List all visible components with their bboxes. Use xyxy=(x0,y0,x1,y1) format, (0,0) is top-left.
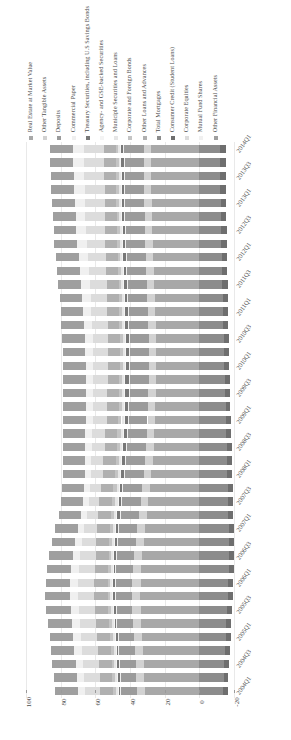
bar-segment[interactable] xyxy=(47,565,71,573)
bar-segment[interactable] xyxy=(116,199,119,207)
bar-segment[interactable] xyxy=(122,321,124,329)
bar-segment[interactable] xyxy=(151,185,199,193)
bar-segment[interactable] xyxy=(148,307,155,315)
legend-item[interactable]: Other Loans and Advances xyxy=(140,0,154,140)
bar-segment[interactable] xyxy=(134,633,142,641)
bar-segment[interactable] xyxy=(145,456,153,464)
bar-segment[interactable] xyxy=(120,470,121,478)
bar-segment[interactable] xyxy=(115,538,117,546)
bar-segment[interactable] xyxy=(124,402,125,410)
bar-segment[interactable] xyxy=(51,172,74,180)
bar-segment[interactable] xyxy=(122,226,123,234)
bar-segment[interactable] xyxy=(199,579,228,587)
bar-segment[interactable] xyxy=(93,348,108,356)
bar-segment[interactable] xyxy=(148,497,199,505)
bar-segment[interactable] xyxy=(117,212,120,220)
bar-segment[interactable] xyxy=(118,267,121,275)
bar-segment[interactable] xyxy=(57,267,80,275)
bar-segment[interactable] xyxy=(125,334,128,342)
bar-row[interactable] xyxy=(26,307,234,315)
bar-segment[interactable] xyxy=(121,172,123,180)
bar-segment[interactable] xyxy=(120,348,123,356)
bar-segment[interactable] xyxy=(84,321,92,329)
bar-segment[interactable] xyxy=(100,673,113,681)
bar-row[interactable] xyxy=(26,660,234,668)
bar-segment[interactable] xyxy=(107,280,119,288)
bar-segment[interactable] xyxy=(116,185,119,193)
bar-segment[interactable] xyxy=(54,226,77,234)
bar-row[interactable] xyxy=(26,606,234,614)
bar-segment[interactable] xyxy=(114,565,116,573)
bar-segment[interactable] xyxy=(107,416,119,424)
bar-segment[interactable] xyxy=(129,375,148,383)
bar-segment[interactable] xyxy=(149,348,156,356)
bar-segment[interactable] xyxy=(121,497,140,505)
bar-segment[interactable] xyxy=(153,253,199,261)
bar-segment[interactable] xyxy=(133,565,141,573)
bar-segment[interactable] xyxy=(85,185,105,193)
bar-segment[interactable] xyxy=(132,606,140,614)
bar-segment[interactable] xyxy=(125,334,126,342)
bar-segment[interactable] xyxy=(121,429,123,437)
bar-segment[interactable] xyxy=(112,497,115,505)
bar-segment[interactable] xyxy=(71,565,79,573)
bar-segment[interactable] xyxy=(225,389,230,397)
bar-segment[interactable] xyxy=(122,456,125,464)
bar-segment[interactable] xyxy=(151,172,199,180)
bar-segment[interactable] xyxy=(108,362,120,370)
bar-segment[interactable] xyxy=(136,660,144,668)
bar-segment[interactable] xyxy=(117,511,119,519)
bar-segment[interactable] xyxy=(84,673,99,681)
bar-segment[interactable] xyxy=(116,633,118,641)
bar-segment[interactable] xyxy=(94,579,107,587)
bar-segment[interactable] xyxy=(224,348,229,356)
bar-segment[interactable] xyxy=(121,470,124,478)
legend-item[interactable]: Commercial Paper xyxy=(69,0,83,140)
bar-segment[interactable] xyxy=(128,416,147,424)
bar-segment[interactable] xyxy=(119,402,122,410)
bar-segment[interactable] xyxy=(144,470,152,478)
bar-segment[interactable] xyxy=(199,592,227,600)
bar-segment[interactable] xyxy=(119,199,121,207)
bar-segment[interactable] xyxy=(199,199,220,207)
legend-item[interactable]: Deposits xyxy=(54,0,68,140)
bar-segment[interactable] xyxy=(128,294,148,302)
bar-segment[interactable] xyxy=(111,565,113,573)
bar-segment[interactable] xyxy=(124,416,125,424)
bar-segment[interactable] xyxy=(122,443,123,451)
bar-segment[interactable] xyxy=(199,389,225,397)
bar-segment[interactable] xyxy=(133,619,141,627)
bar-segment[interactable] xyxy=(81,511,87,519)
bar-segment[interactable] xyxy=(224,660,229,668)
bar-segment[interactable] xyxy=(227,443,232,451)
bar-segment[interactable] xyxy=(105,212,117,220)
bar-segment[interactable] xyxy=(142,484,150,492)
bar-segment[interactable] xyxy=(127,267,147,275)
bar-segment[interactable] xyxy=(112,619,114,627)
bar-segment[interactable] xyxy=(149,375,156,383)
bar-segment[interactable] xyxy=(199,538,228,546)
bar-segment[interactable] xyxy=(220,158,226,166)
bar-segment[interactable] xyxy=(115,565,116,573)
bar-segment[interactable] xyxy=(111,606,113,614)
bar-segment[interactable] xyxy=(199,511,228,519)
bar-segment[interactable] xyxy=(114,646,116,654)
bar-segment[interactable] xyxy=(46,579,70,587)
bar-segment[interactable] xyxy=(225,375,230,383)
bar-segment[interactable] xyxy=(120,145,121,153)
bar-segment[interactable] xyxy=(155,294,200,302)
bar-segment[interactable] xyxy=(73,158,83,166)
bar-segment[interactable] xyxy=(113,579,115,587)
bar-segment[interactable] xyxy=(118,470,120,478)
bar-segment[interactable] xyxy=(103,470,115,478)
bar-segment[interactable] xyxy=(225,646,230,654)
bar-segment[interactable] xyxy=(110,579,112,587)
bar-segment[interactable] xyxy=(199,565,228,573)
bar-segment[interactable] xyxy=(120,443,122,451)
bar-segment[interactable] xyxy=(112,660,115,668)
bar-segment[interactable] xyxy=(149,334,156,342)
bar-segment[interactable] xyxy=(55,524,78,532)
bar-segment[interactable] xyxy=(129,348,148,356)
bar-segment[interactable] xyxy=(113,606,114,614)
bar-segment[interactable] xyxy=(123,253,126,261)
